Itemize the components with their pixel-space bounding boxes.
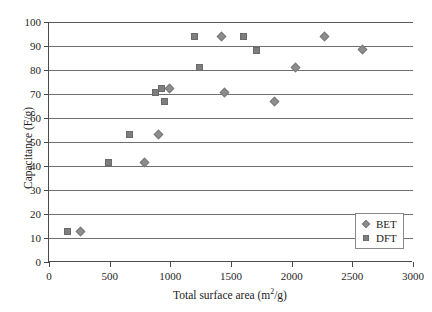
x-tick-label-3000: 3000: [402, 271, 424, 282]
x-axis-title-tail: /g): [274, 289, 287, 301]
y-tick-80: [44, 70, 49, 71]
data-point-dft-7: [196, 64, 203, 71]
legend-label-bet: BET: [376, 219, 397, 230]
gridline-y-60: [49, 118, 413, 119]
gridline-y-30: [49, 190, 413, 191]
data-point-bet-6: [270, 96, 280, 106]
scatter-chart-figure: 0102030405060708090100050010001500200025…: [0, 0, 432, 312]
x-tick-2500: [352, 262, 353, 267]
x-tick-label-2500: 2500: [341, 271, 363, 282]
gridline-y-80: [49, 70, 413, 71]
x-tick-1000: [170, 262, 171, 267]
bet-diamond-icon: [360, 221, 372, 227]
x-tick-label-1500: 1500: [220, 271, 242, 282]
data-point-dft-4: [158, 85, 165, 92]
gridline-y-100: [49, 22, 413, 23]
y-tick-40: [44, 166, 49, 167]
y-tick-label-10: 10: [30, 233, 41, 244]
y-tick-label-100: 100: [25, 17, 42, 28]
data-point-bet-0: [76, 227, 86, 237]
x-tick-label-2000: 2000: [281, 271, 303, 282]
chart-legend: BET DFT: [355, 213, 404, 249]
x-tick-500: [110, 262, 111, 267]
gridline-y-70: [49, 94, 413, 95]
data-point-dft-1: [105, 159, 112, 166]
data-point-dft-6: [191, 33, 198, 40]
x-tick-label-0: 0: [46, 271, 52, 282]
gridline-y-40: [49, 166, 413, 167]
gridline-y-50: [49, 142, 413, 143]
x-axis-title: Total surface area (m2/g): [48, 287, 412, 301]
y-tick-70: [44, 94, 49, 95]
y-tick-30: [44, 190, 49, 191]
data-point-dft-9: [253, 47, 260, 54]
legend-entry-bet: BET: [360, 217, 397, 231]
x-tick-3000: [413, 262, 414, 267]
data-point-dft-5: [161, 98, 168, 105]
x-tick-label-500: 500: [101, 271, 118, 282]
y-tick-60: [44, 118, 49, 119]
y-axis-title: Capacitance (F/g): [22, 68, 34, 228]
y-tick-90: [44, 46, 49, 47]
x-tick-0: [49, 262, 50, 267]
y-tick-50: [44, 142, 49, 143]
data-point-bet-5: [220, 87, 230, 97]
dft-square-icon: [360, 235, 372, 241]
data-point-dft-0: [64, 228, 71, 235]
data-point-dft-8: [240, 33, 247, 40]
x-tick-1500: [231, 262, 232, 267]
data-point-bet-8: [319, 31, 329, 41]
data-point-bet-4: [216, 31, 226, 41]
y-tick-100: [44, 22, 49, 23]
legend-entry-dft: DFT: [360, 231, 397, 245]
x-tick-2000: [292, 262, 293, 267]
data-point-dft-2: [126, 131, 133, 138]
y-tick-label-0: 0: [36, 257, 42, 268]
legend-label-dft: DFT: [376, 233, 397, 244]
data-point-bet-3: [164, 83, 174, 93]
data-point-bet-2: [154, 129, 164, 139]
x-tick-label-1000: 1000: [159, 271, 181, 282]
y-tick-10: [44, 238, 49, 239]
y-tick-20: [44, 214, 49, 215]
y-tick-label-90: 90: [30, 41, 41, 52]
x-axis-title-base: Total surface area (m: [173, 289, 270, 301]
